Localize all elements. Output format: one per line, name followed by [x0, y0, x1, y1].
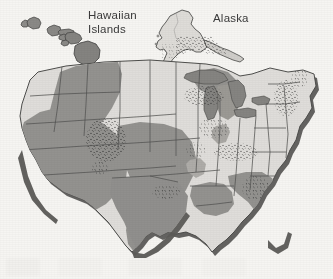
map-figure: Hawaiian Islands Alaska	[0, 0, 333, 279]
hawaii-island-kahoolawe	[61, 40, 69, 46]
label-alaska: Alaska	[213, 12, 249, 24]
alaska-island-small-a	[157, 35, 159, 37]
label-hawaiian-islands-line2: Islands	[88, 23, 126, 35]
alaska-island-small-b	[155, 43, 157, 45]
label-hawaiian-islands-line1: Hawaiian	[88, 9, 137, 21]
hawaii-island-hawaii	[74, 41, 100, 65]
us-map-svg: Hawaiian Islands Alaska	[0, 0, 333, 279]
